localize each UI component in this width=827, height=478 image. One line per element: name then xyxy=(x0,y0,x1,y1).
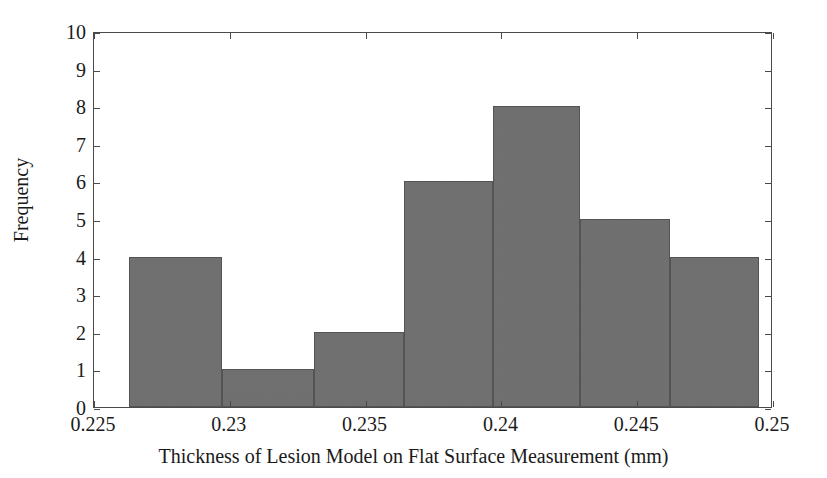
x-axis-tick-label: 0.23 xyxy=(211,414,246,434)
y-axis-tick xyxy=(94,296,100,297)
histogram-bar xyxy=(314,332,404,407)
y-axis-tick-label: 6 xyxy=(76,172,86,192)
x-axis-tick xyxy=(230,401,231,407)
y-axis-tick xyxy=(765,371,771,372)
y-axis-tick-label: 10 xyxy=(66,22,86,42)
y-axis-tick xyxy=(765,334,771,335)
y-axis-tick xyxy=(765,221,771,222)
x-axis-tick-label: 0.225 xyxy=(71,414,116,434)
y-axis-tick xyxy=(94,183,100,184)
y-axis-tick-label: 7 xyxy=(76,135,86,155)
x-axis-tick xyxy=(501,33,502,39)
y-axis-tick-label: 3 xyxy=(76,285,86,305)
y-axis-tick xyxy=(765,71,771,72)
x-axis-tick-label: 0.24 xyxy=(483,414,518,434)
y-axis-tick-label: 2 xyxy=(76,323,86,343)
y-axis-title: Frequency xyxy=(11,120,31,280)
histogram-bar xyxy=(222,369,314,407)
y-axis-tick xyxy=(765,146,771,147)
y-axis-tick-label: 9 xyxy=(76,60,86,80)
x-axis-tick xyxy=(94,33,95,39)
x-axis-tick xyxy=(501,401,502,407)
y-axis-tick xyxy=(765,296,771,297)
y-axis-tick-label: 8 xyxy=(76,97,86,117)
x-axis-tick-labels: 0.2250.230.2350.240.2450.25 xyxy=(0,414,827,440)
x-axis-tick xyxy=(366,401,367,407)
y-axis-tick-label: 5 xyxy=(76,210,86,230)
y-axis-tick xyxy=(765,33,771,34)
histogram-bar xyxy=(580,219,670,407)
y-axis-tick xyxy=(94,108,100,109)
y-axis-tick xyxy=(94,221,100,222)
bars-layer xyxy=(94,33,771,407)
histogram-figure: 012345678910 Frequency 0.2250.230.2350.2… xyxy=(0,0,827,478)
y-axis-tick xyxy=(94,334,100,335)
x-axis-tick-label: 0.25 xyxy=(755,414,790,434)
y-axis-tick xyxy=(765,259,771,260)
y-axis-tick-label: 4 xyxy=(76,248,86,268)
y-axis-tick-labels: 012345678910 xyxy=(58,32,86,408)
y-axis-tick xyxy=(94,146,100,147)
y-axis-tick xyxy=(94,71,100,72)
x-axis-tick-label: 0.235 xyxy=(342,414,387,434)
y-axis-tick xyxy=(94,409,100,410)
y-axis-tick xyxy=(765,409,771,410)
histogram-bar xyxy=(670,257,760,407)
x-axis-tick xyxy=(637,33,638,39)
x-axis-title: Thickness of Lesion Model on Flat Surfac… xyxy=(0,446,827,466)
y-axis-tick xyxy=(765,183,771,184)
x-axis-tick xyxy=(637,401,638,407)
y-axis-tick-label: 1 xyxy=(76,360,86,380)
x-axis-tick xyxy=(230,33,231,39)
x-axis-tick xyxy=(773,33,774,39)
histogram-bar xyxy=(129,257,221,407)
histogram-bar xyxy=(404,181,494,407)
plot-area xyxy=(93,32,772,408)
y-axis-tick xyxy=(94,259,100,260)
x-axis-tick xyxy=(773,401,774,407)
y-axis-tick xyxy=(765,108,771,109)
x-axis-tick xyxy=(366,33,367,39)
x-axis-tick xyxy=(94,401,95,407)
y-axis-tick xyxy=(94,371,100,372)
x-axis-tick-label: 0.245 xyxy=(614,414,659,434)
histogram-bar xyxy=(493,106,580,407)
